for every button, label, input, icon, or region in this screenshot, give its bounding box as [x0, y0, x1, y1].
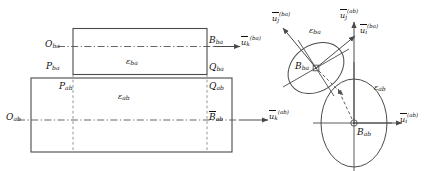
vertical-ellipse-ab	[313, 62, 392, 171]
dashed-distance-arrow	[319, 71, 352, 119]
label-vector-u-i-ab: ui(ab)	[400, 113, 418, 124]
upper-rectangle-ba	[73, 29, 207, 75]
vector-u-i-ba	[316, 36, 355, 68]
label-vector-u-k-ba: uk(ba)	[241, 36, 261, 47]
label-epsilon-ba-ellipse: εba	[309, 27, 321, 35]
label-P-ba: Pba	[46, 62, 59, 71]
label-P-ab: Pab	[59, 82, 72, 91]
label-B-ba-center: Bba	[295, 62, 309, 71]
label-epsilon-ab-ellipse: εab	[374, 84, 386, 92]
label-B-ba: Bba	[209, 36, 223, 45]
figure-canvas: Oba Pba Bba Qba εba Pab Qab Oab Bab εab …	[0, 0, 424, 171]
label-O-ab: Oab	[6, 113, 21, 122]
label-vector-u-i-ba: ui(ba)	[360, 24, 378, 35]
label-B-ab-bar: Bab	[209, 113, 223, 122]
label-Q-ab: Qab	[209, 82, 224, 91]
label-vector-u-j-ba: uj(ba)	[272, 12, 290, 23]
label-epsilon-ba-rect: εba	[126, 58, 138, 66]
label-O-ba: Oba	[45, 40, 60, 49]
label-B-ab-center: Bab	[357, 128, 371, 137]
label-vector-u-j-ab: uj(ab)	[340, 9, 358, 20]
label-epsilon-ab-rect: εab	[118, 93, 130, 101]
label-vector-u-k-ab: uk(ab)	[269, 110, 289, 121]
label-Q-ba: Qba	[209, 63, 224, 72]
